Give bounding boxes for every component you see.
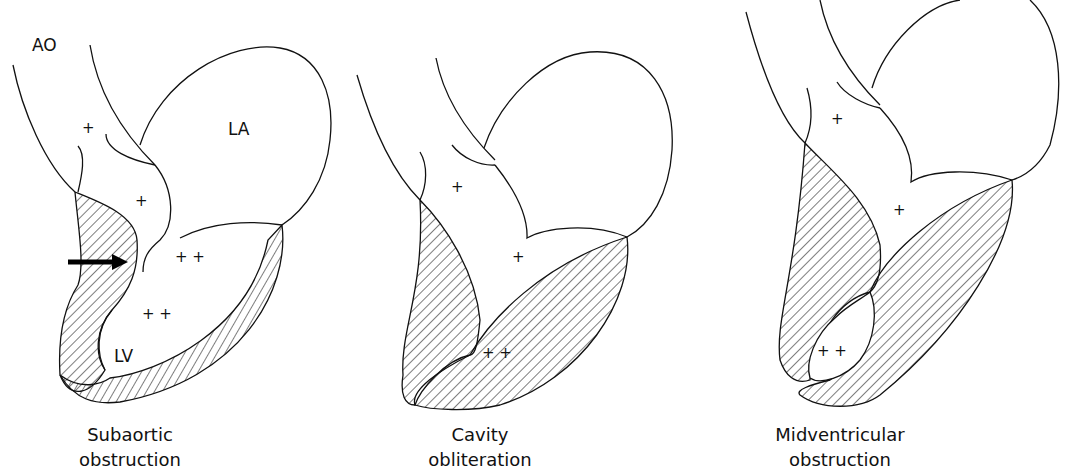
panel-subaortic-obstruction: AO LA LV + + + + + +	[13, 35, 331, 403]
aorta-right-wall	[436, 58, 495, 160]
label-left-ventricle: LV	[114, 346, 134, 366]
aortic-valve-leaflet-left	[805, 88, 811, 143]
caption-cavity-obliteration: Cavity obliteration	[405, 422, 555, 472]
pressure-mark: + +	[482, 344, 512, 362]
caption-midventricular-obstruction: Midventricular obstruction	[755, 422, 925, 472]
mitral-leaflet	[143, 165, 171, 272]
pressure-mark: + +	[175, 248, 205, 266]
caption-line: obstruction	[55, 447, 205, 472]
aortic-valve-leaflet-left	[78, 146, 83, 192]
caption-subaortic-obstruction: Subaortic obstruction	[55, 422, 205, 472]
caption-line: obstruction	[755, 447, 925, 472]
pressure-mark: +	[451, 178, 464, 196]
panel-midventricular-obstruction: + + + +	[746, 0, 1059, 406]
aorta-left-wall	[357, 75, 420, 200]
label-aorta: AO	[32, 35, 57, 55]
aorta-right-wall	[820, 0, 880, 105]
pressure-mark: +	[893, 201, 906, 219]
left-atrium-outline	[484, 52, 672, 237]
aorta-left-wall	[746, 12, 805, 143]
aortic-valve-leaflet-left	[420, 152, 426, 200]
label-left-atrium: LA	[228, 119, 250, 139]
pressure-mark: +	[831, 110, 844, 128]
pressure-mark: + +	[817, 342, 847, 360]
left-atrium-outline	[872, 0, 1059, 180]
aortic-valve-leaflet-right	[452, 145, 495, 165]
caption-line: Midventricular	[755, 422, 925, 447]
aorta-right-wall	[90, 45, 155, 165]
pressure-mark: +	[82, 119, 95, 137]
panel-cavity-obliteration: + + + +	[357, 52, 672, 410]
pressure-mark: +	[512, 248, 525, 266]
hcm-obstruction-diagram: AO LA LV + + + + + + + + + + + + + +	[0, 0, 1067, 475]
pressure-mark: +	[135, 192, 148, 210]
mitral-leaflet	[880, 108, 1012, 182]
caption-line: Cavity	[405, 422, 555, 447]
aortic-valve-leaflet-right	[106, 134, 155, 165]
caption-line: obliteration	[405, 447, 555, 472]
mitral-leaflet	[495, 165, 627, 238]
aorta-left-wall	[13, 65, 75, 192]
mitral-posterior-leaflet	[180, 223, 282, 238]
caption-line: Subaortic	[55, 422, 205, 447]
aortic-valve-leaflet-right	[837, 82, 880, 108]
pressure-mark: + +	[142, 305, 172, 323]
